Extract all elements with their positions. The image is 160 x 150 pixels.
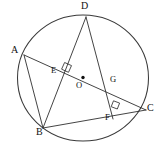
label-point-e: E — [51, 66, 56, 75]
label-point-d: D — [81, 1, 88, 11]
label-point-f: F — [105, 113, 110, 122]
label-point-c: C — [147, 103, 154, 113]
label-point-b: B — [36, 127, 43, 137]
label-point-g: G — [110, 75, 116, 84]
segment-ac — [24, 55, 146, 110]
right-angle-marker-f — [111, 101, 119, 109]
center-point-dot — [81, 76, 84, 79]
segment-bc — [43, 110, 146, 128]
geometry-canvas — [0, 0, 160, 150]
label-point-o: O — [76, 81, 82, 90]
label-point-a: A — [11, 45, 18, 55]
segment-ab — [24, 55, 43, 128]
segment-df — [86, 17, 113, 119]
geometry-figure: A B C D E O G F — [0, 0, 160, 150]
segment-bd — [43, 17, 86, 128]
